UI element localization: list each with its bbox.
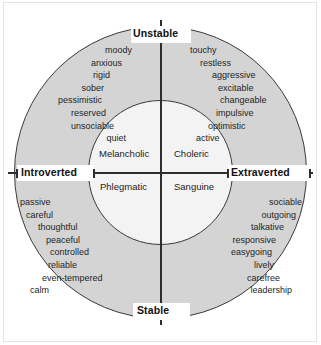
trait-word: aggressive xyxy=(190,69,302,82)
trait-word: reserved xyxy=(20,107,132,120)
trait-word: thoughtful xyxy=(20,221,132,234)
personality-circumplex-figure: Unstable Stable Introverted Extraverted … xyxy=(0,0,321,345)
trait-list-choleric: touchyrestlessaggressiveexcitablechangea… xyxy=(190,44,302,145)
trait-word: excitable xyxy=(190,82,302,95)
trait-word: peaceful xyxy=(20,234,132,247)
trait-list-sanguine: sociableoutgoingtalkativeresponsiveeasyg… xyxy=(190,196,302,297)
trait-word: quiet xyxy=(20,132,132,145)
trait-word: leadership xyxy=(190,284,302,297)
trait-word: unsociable xyxy=(20,120,132,133)
axis-tick-left-inner xyxy=(93,169,95,178)
trait-word: changeable xyxy=(190,94,302,107)
axis-tick-right-inner xyxy=(227,169,229,178)
axis-label-unstable: Unstable xyxy=(133,27,178,39)
axis-label-introverted: Introverted xyxy=(21,166,77,178)
trait-word: impulsive xyxy=(190,107,302,120)
trait-word: anxious xyxy=(20,57,132,70)
trait-word: talkative xyxy=(190,221,302,234)
trait-word: carefree xyxy=(190,272,302,285)
trait-word: even-tempered xyxy=(20,272,132,285)
trait-word: sociable xyxy=(190,196,302,209)
trait-word: restless xyxy=(190,57,302,70)
trait-word: controlled xyxy=(20,246,132,259)
axis-label-extraverted: Extraverted xyxy=(231,166,290,178)
trait-word: passive xyxy=(20,196,132,209)
trait-list-melancholic: moodyanxiousrigidsoberpessimisticreserve… xyxy=(20,44,132,145)
trait-word: responsive xyxy=(190,234,302,247)
trait-word: active xyxy=(190,132,302,145)
trait-word: moody xyxy=(20,44,132,57)
trait-word: optimistic xyxy=(190,120,302,133)
axis-label-stable: Stable xyxy=(137,304,169,316)
trait-word: easygoing xyxy=(190,246,302,259)
trait-word: reliable xyxy=(20,259,132,272)
trait-word: calm xyxy=(20,284,132,297)
trait-list-phlegmatic: passivecarefulthoughtfulpeacefulcontroll… xyxy=(20,196,132,297)
trait-word: rigid xyxy=(20,69,132,82)
quadrant-label-melancholic: Melancholic xyxy=(99,148,149,159)
axis-tick-left-outer xyxy=(16,169,18,178)
trait-word: touchy xyxy=(190,44,302,57)
trait-word: careful xyxy=(20,209,132,222)
quadrant-label-sanguine: Sanguine xyxy=(174,181,214,192)
trait-word: pessimistic xyxy=(20,94,132,107)
quadrant-label-phlegmatic: Phlegmatic xyxy=(100,181,147,192)
axis-tick-right-outer xyxy=(309,169,311,178)
trait-word: outgoing xyxy=(190,209,302,222)
trait-word: sober xyxy=(20,82,132,95)
quadrant-label-choleric: Choleric xyxy=(174,148,209,159)
trait-word: lively xyxy=(190,259,302,272)
